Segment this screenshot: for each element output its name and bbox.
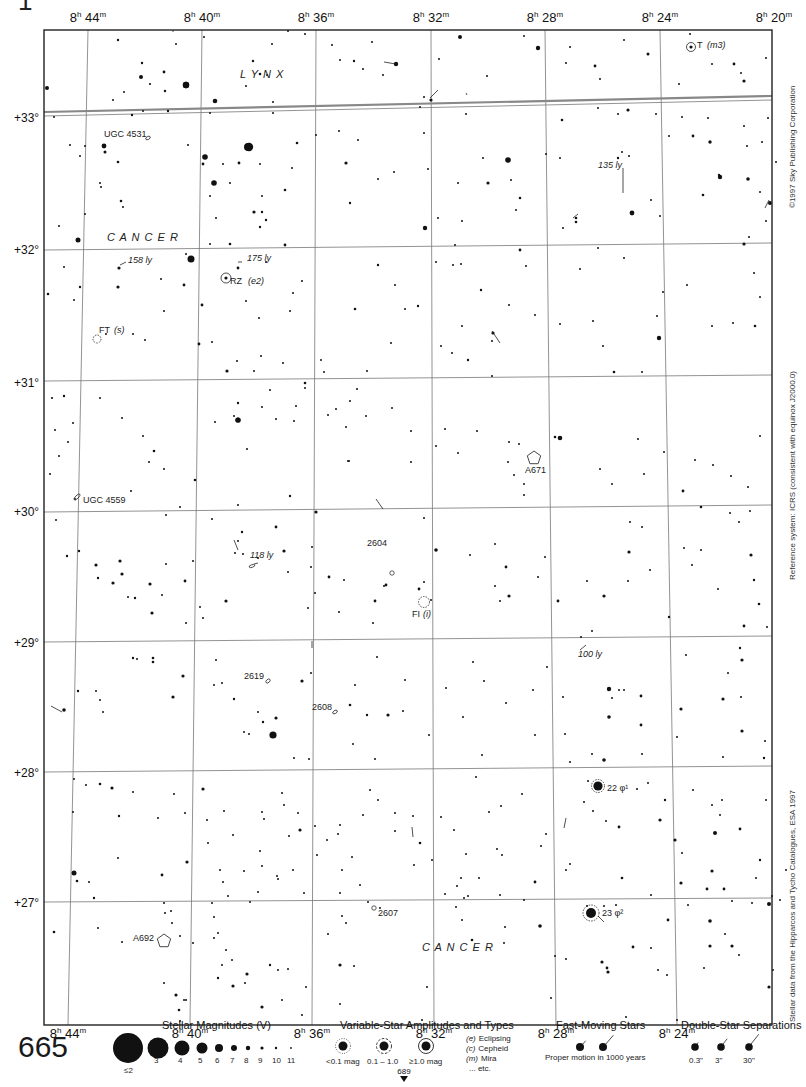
star [277,878,279,880]
object-label: 2604 [367,538,387,548]
star [478,877,480,879]
star [544,556,546,558]
star [627,580,629,582]
star [611,483,613,485]
star [640,724,643,727]
star [269,389,271,391]
star [260,1005,263,1008]
star [213,99,218,104]
star [510,179,512,181]
star [175,43,177,45]
star [281,792,283,794]
star [376,656,378,658]
star [759,435,761,437]
star [451,352,453,354]
star [366,370,368,372]
star [289,310,291,312]
star [211,341,213,343]
star [122,206,124,208]
star [353,60,355,62]
star [659,215,661,217]
star [338,130,340,132]
star [723,888,726,891]
star [602,345,604,347]
star [282,549,285,552]
double-star-dot [745,1043,753,1051]
star [95,690,97,692]
star [263,818,265,820]
star [283,804,285,806]
star [505,702,507,704]
variable-sample-dot [339,1042,348,1051]
star [213,684,215,686]
star [351,856,353,858]
proper-motion-arrow [582,1041,586,1045]
star [686,284,688,286]
star [374,600,377,603]
star [221,682,223,684]
star [486,181,489,184]
ra-label-top: 8h 44m [70,10,106,25]
variable-star-core [689,45,692,48]
star [184,580,187,583]
variable-sample-dot [422,1042,431,1051]
star [613,371,616,374]
object-label: T [697,40,703,50]
star [508,441,510,443]
star [742,79,745,82]
star [404,679,406,681]
star [215,217,217,219]
star [743,125,745,127]
star [534,881,537,884]
object-label: RZ [230,276,242,286]
star [621,151,623,153]
star [237,402,239,404]
star [121,417,123,419]
dec-gridline [44,898,772,902]
object-labels: L Y N XC A N C E RC A N C E RUGC 4531158… [83,40,726,953]
star [209,195,211,197]
star [676,1019,678,1021]
star [349,202,351,204]
star [647,53,650,56]
star [719,814,721,816]
star [269,964,271,966]
star [623,39,625,41]
star [301,1014,303,1016]
star [731,900,733,902]
star [209,112,211,114]
star [550,997,552,999]
star [429,98,432,101]
star [708,140,711,143]
star [413,864,415,866]
star [618,826,621,829]
star [729,512,731,514]
star [261,865,263,867]
star [663,451,665,453]
star [457,452,459,454]
star [94,563,97,566]
magnitude-label: 8 [244,1056,248,1065]
star [93,897,95,899]
star [66,555,68,557]
double-star-label: 0.3" [689,1056,703,1065]
star [575,221,578,224]
star [491,375,493,377]
star [385,584,388,587]
star [561,119,564,122]
star [437,217,439,219]
star [73,299,75,301]
star [116,285,119,288]
star [45,86,49,90]
star [367,901,369,903]
next-page-link[interactable]: 689 [394,1067,414,1082]
ra-label-top: 8h 40m [184,10,220,25]
constellation-boundary-line [44,96,772,112]
magnitude-label: 9 [258,1056,262,1065]
star [171,922,173,924]
object-label: 135 ly [598,160,623,170]
variable-type-name: Mira [481,1054,497,1063]
star [727,672,729,674]
star [607,687,611,691]
dec-label: +32° [14,243,39,257]
